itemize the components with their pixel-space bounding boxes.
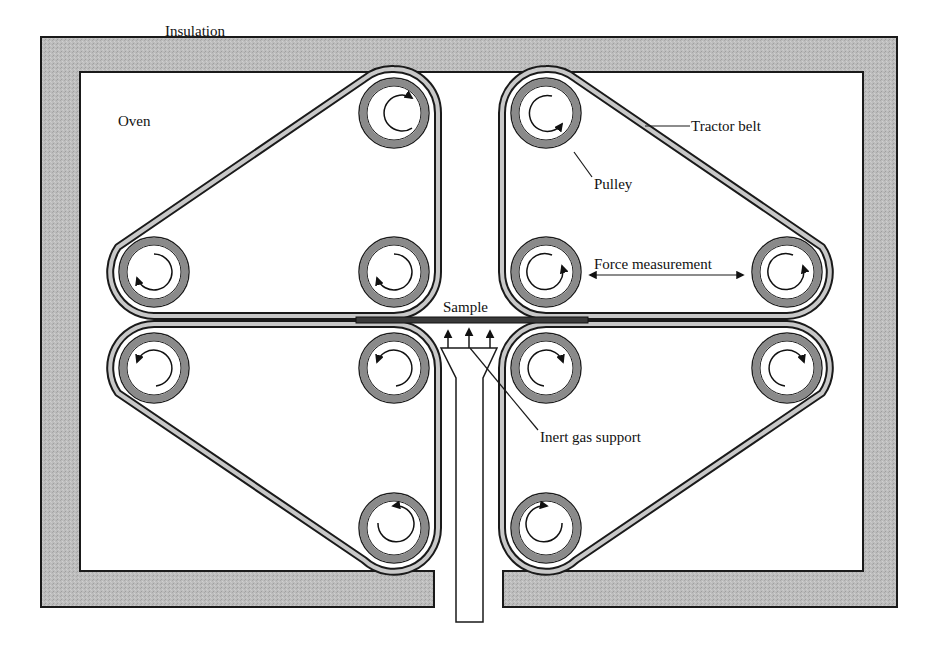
pulley-bottom-right-right-icon — [752, 333, 822, 403]
pulley-top-left-left-icon — [119, 237, 189, 307]
force-measurement-label: Force measurement — [594, 256, 713, 272]
oven-label: Oven — [118, 113, 151, 129]
inert-gas-nozzle — [441, 329, 497, 622]
pulley-top-left-right-icon — [359, 237, 429, 307]
pulley-bottom-left-right-icon — [359, 333, 429, 403]
pulley-bottom-right-bottom-icon — [511, 493, 581, 563]
pulley-label: Pulley — [594, 176, 633, 192]
insulation-label: Insulation — [165, 23, 225, 39]
pulley-bottom-left-left-icon — [119, 333, 189, 403]
pulley-top-right-left-icon — [511, 237, 581, 307]
pulley-bottom-left-bottom-icon — [359, 493, 429, 563]
pulley-top-right-right-icon — [752, 237, 822, 307]
sample-strip — [356, 317, 588, 323]
tractor-belt-label: Tractor belt — [691, 118, 762, 134]
pulley-bottom-right-left-icon — [511, 333, 581, 403]
pulley-top-left-top-icon — [359, 78, 429, 148]
sample-label: Sample — [443, 299, 488, 315]
tractor-belt-oven-diagram: Insulation Oven Tractor belt Pulley Forc… — [0, 0, 935, 648]
pulley-top-right-top-icon — [511, 78, 581, 148]
pulley-leader — [574, 152, 592, 177]
inert-gas-support-label: Inert gas support — [540, 429, 642, 445]
